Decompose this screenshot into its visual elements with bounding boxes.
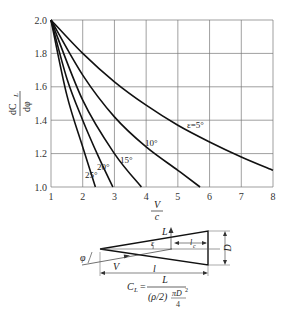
lift-coefficient-formula: C L = L (ρ/2) πD 2 4	[127, 274, 188, 309]
xlabel-denominator: c	[155, 211, 160, 222]
label-l: l	[153, 263, 156, 274]
x-tick-label: 2	[80, 191, 85, 202]
x-axis-ticks: 12345678	[49, 191, 276, 202]
label-lc-sub: c	[193, 243, 196, 249]
x-tick-label: 5	[175, 191, 180, 202]
cone-diagram: V φ ε L l c D l C L = L	[80, 226, 233, 309]
label-V: V	[113, 261, 121, 272]
formula-denominator: (ρ/2)	[148, 291, 168, 303]
formula-squared: 2	[185, 287, 188, 293]
formula-numerator: L	[161, 274, 168, 285]
x-tick-label: 4	[144, 191, 149, 202]
formula-lhs-sub: L	[133, 286, 138, 294]
curves	[51, 20, 273, 187]
formula-lhs: C	[127, 281, 134, 292]
xlabel-numerator: V	[154, 199, 162, 210]
label-D: D	[222, 244, 233, 253]
ylabel-sub: L	[12, 93, 20, 98]
label-10: 10°	[145, 138, 158, 148]
formula-equals: =	[140, 281, 146, 292]
y-tick-label: 1.2	[35, 148, 48, 159]
y-tick-label: 1.4	[35, 115, 48, 126]
formula-four: 4	[176, 300, 180, 309]
label-25: 25°	[85, 170, 98, 180]
x-tick-label: 8	[271, 191, 276, 202]
ylabel-denominator: dφ	[21, 101, 32, 112]
x-axis-label: V c	[151, 199, 163, 222]
label-eps-5: ε=5°	[187, 120, 204, 130]
y-tick-label: 1.0	[35, 182, 48, 193]
y-tick-label: 1.6	[35, 81, 48, 92]
x-tick-label: 6	[207, 191, 212, 202]
label-phi: φ	[80, 252, 86, 263]
x-tick-label: 7	[239, 191, 244, 202]
y-tick-label: 1.8	[35, 48, 48, 59]
x-tick-label: 1	[49, 191, 54, 202]
curve-5deg	[51, 20, 273, 170]
formula-pi-d: πD	[172, 289, 182, 298]
label-L: L	[161, 226, 168, 237]
x-tick-label: 3	[112, 191, 117, 202]
chart-figure: 12345678 1.01.21.41.61.82.0 ε=5° 10° 15°…	[0, 0, 284, 316]
y-tick-label: 2.0	[35, 15, 48, 26]
y-axis-label: dC L dφ	[7, 91, 32, 116]
label-20: 20°	[97, 162, 110, 172]
y-axis-ticks: 1.01.21.41.61.82.0	[35, 15, 48, 193]
ylabel-numerator: dC	[7, 103, 18, 115]
label-15: 15°	[120, 155, 133, 165]
